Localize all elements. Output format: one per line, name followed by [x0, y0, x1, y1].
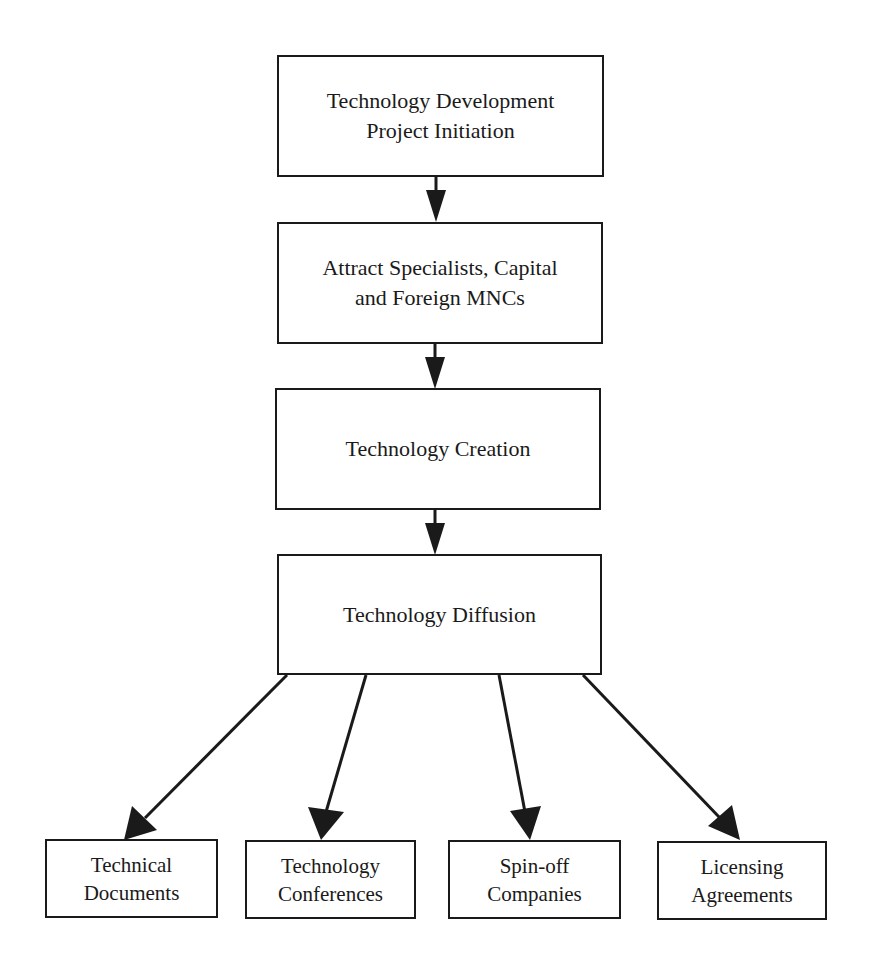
technology-development-flowchart: Technology Development Project Initiatio…	[0, 0, 873, 973]
stage-label-line: Project Initiation	[366, 116, 514, 146]
output-box-spin-off-companies: Spin-off Companies	[448, 840, 621, 919]
stage-label-line: and Foreign MNCs	[355, 283, 525, 313]
arrow-attract-to-creation	[425, 344, 445, 389]
stage-box-technology-diffusion: Technology Diffusion	[277, 554, 602, 675]
stage-box-technology-creation: Technology Creation	[275, 388, 601, 510]
stage-label-line: Technology Diffusion	[343, 600, 536, 630]
arrow-initiation-to-attract	[426, 177, 446, 222]
arrow-diffusion-to-licensing-agreements	[583, 675, 740, 840]
output-label-line: Documents	[84, 879, 180, 907]
stage-label-line: Technology Development	[327, 86, 555, 116]
output-label-line: Technical	[91, 851, 172, 879]
output-label-line: Technology	[281, 852, 380, 880]
arrow-creation-to-diffusion	[425, 510, 445, 555]
output-label-line: Licensing	[701, 853, 784, 881]
output-label-line: Companies	[487, 880, 582, 908]
output-label-line: Conferences	[278, 880, 383, 908]
arrow-diffusion-to-technology-conferences	[308, 675, 366, 840]
output-box-technical-documents: Technical Documents	[45, 839, 218, 918]
output-label-line: Spin-off	[500, 852, 570, 880]
stage-box-project-initiation: Technology Development Project Initiatio…	[277, 55, 604, 177]
output-box-technology-conferences: Technology Conferences	[245, 840, 416, 919]
output-label-line: Agreements	[691, 881, 792, 909]
output-box-licensing-agreements: Licensing Agreements	[657, 841, 827, 920]
stage-label-line: Technology Creation	[346, 434, 531, 464]
stage-box-attract-specialists: Attract Specialists, Capital and Foreign…	[277, 222, 603, 344]
stage-label-line: Attract Specialists, Capital	[322, 253, 557, 283]
arrow-diffusion-to-spin-off-companies	[499, 675, 541, 840]
arrow-diffusion-to-technical-documents	[124, 675, 287, 840]
